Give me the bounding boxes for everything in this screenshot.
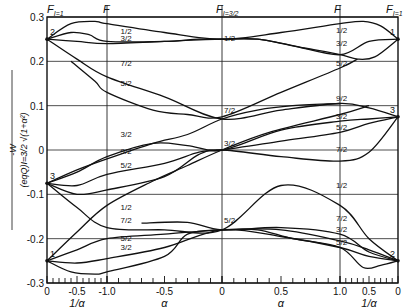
edge-point-label: 3: [50, 171, 55, 181]
curve-label: 3/2: [121, 34, 133, 43]
y-tick-label: -0.1: [27, 189, 45, 200]
curve-label: 5/2: [224, 216, 236, 225]
edge-point-label: 2: [50, 27, 55, 37]
curve: [47, 106, 369, 261]
x-tick-label: 0: [219, 286, 225, 297]
x-tick-label: -1.0: [98, 286, 116, 297]
curve-label: 9/2: [336, 94, 348, 103]
top-label: F: [103, 3, 111, 15]
top-label: FI=1: [386, 3, 403, 17]
curve-label: 7/2: [121, 59, 133, 68]
curve-label: 5/2: [336, 123, 348, 132]
convergence-point: [396, 37, 400, 41]
convergence-point: [45, 259, 49, 263]
curve-label: 7/2: [121, 216, 133, 225]
energy-level-chart: 0.30.20.10-0.1-0.2-0.30-0.5-1.01/α-0.50α…: [0, 0, 404, 308]
y-tick-label: 0.2: [30, 56, 44, 67]
curve-label: 3/2: [336, 225, 348, 234]
y-tick-label: 0.1: [30, 101, 44, 112]
x-tick-label: 1.0: [333, 286, 347, 297]
convergence-point: [45, 37, 49, 41]
top-label: F: [334, 3, 342, 15]
x-tick-label: 0.5: [362, 286, 376, 297]
curve-label: 7/2: [336, 145, 348, 154]
curve-label: 1/2: [336, 26, 348, 35]
curve-label: 7/2: [224, 106, 236, 115]
y-tick-label: 0.3: [30, 12, 44, 23]
x-axis-label: 1/α: [69, 297, 85, 308]
curve-label: 3/2: [336, 112, 348, 121]
curve: [47, 39, 398, 119]
convergence-point: [396, 259, 400, 263]
curve-label: 1/2: [121, 203, 133, 212]
x-tick-label: 0: [44, 286, 50, 297]
top-label: FI=3/2: [216, 3, 239, 17]
curve-label: 1/2: [224, 34, 236, 43]
curve-label: 3/2: [336, 39, 348, 48]
x-axis-label: α: [278, 297, 285, 308]
y-tick-label: -0.3: [27, 278, 45, 289]
curve-label: 1/2: [336, 181, 348, 190]
x-axis-label: α: [161, 297, 168, 308]
y-axis-label: -W(eqQ)I=3/2 √(1+α²): [8, 112, 29, 187]
curve-label: 3/2: [224, 139, 236, 148]
x-tick-label: 0: [395, 286, 401, 297]
curve: [71, 59, 357, 118]
x-axis-label: 1/α: [361, 297, 377, 308]
curve-label: 5/2: [121, 79, 133, 88]
x-tick-label: -0.5: [68, 286, 86, 297]
axis-ticks: [47, 276, 398, 283]
curve-label: 3/2: [121, 243, 133, 252]
curve-label: 3/2: [121, 130, 133, 139]
curve-label: 7/2: [336, 214, 348, 223]
edge-point-label: 3: [390, 105, 395, 115]
top-label: FI=1: [47, 3, 64, 17]
curve-label: 5/2: [336, 238, 348, 247]
edge-point-label: 1: [390, 27, 395, 37]
edge-point-label: 1: [50, 249, 55, 259]
curve-label: 5/2: [121, 234, 133, 243]
y-tick-label: 0: [38, 145, 44, 156]
curve-label: 9/2: [121, 147, 133, 156]
y-tick-label: -0.2: [27, 234, 45, 245]
curve-label: 5/2: [121, 161, 133, 170]
curve-label: 5/2: [336, 59, 348, 68]
convergence-point: [45, 181, 49, 185]
x-tick-label: 0.5: [274, 286, 288, 297]
edge-point-label: 2: [390, 249, 395, 259]
convergence-point: [396, 115, 400, 119]
x-tick-label: -0.5: [156, 286, 174, 297]
